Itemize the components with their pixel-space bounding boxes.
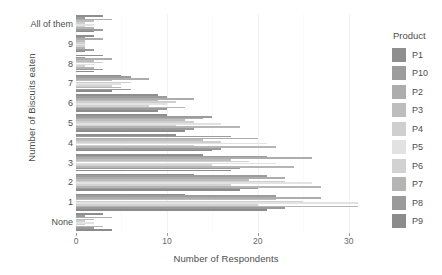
y-tick-label: 4 [3,138,73,148]
legend-swatch-icon [392,122,406,136]
legend-item-label: P9 [412,216,423,226]
y-tick-label: 1 [3,197,73,207]
legend-item-p4[interactable]: P4 [392,120,442,137]
bar-group [76,15,376,32]
legend-items: P1P10P2P3P4P5P6P7P8P9 [392,46,442,230]
legend-item-p3[interactable]: P3 [392,102,442,119]
legend-swatch-icon [392,196,406,210]
bar-group [76,75,376,92]
x-axis-title: Number of Respondents [76,253,376,264]
legend-swatch-icon [392,140,406,154]
bar-p9 [76,150,212,152]
plot-panel [76,14,376,232]
legend-item-label: P1 [412,50,423,60]
x-axis-ticks: 0102030 [76,233,376,247]
y-tick-label: 8 [3,59,73,69]
bar-p9 [76,130,185,132]
biscuit-product-bar-chart: Number of Biscuits eaten All of them9876… [0,0,442,275]
legend-item-p6[interactable]: P6 [392,157,442,174]
bar-group [76,35,376,52]
legend-item-p5[interactable]: P5 [392,139,442,156]
legend-item-label: P7 [412,179,423,189]
legend-item-p7[interactable]: P7 [392,176,442,193]
y-tick-label: 5 [3,118,73,128]
legend-item-p10[interactable]: P10 [392,65,442,82]
bar-group [76,114,376,131]
bar-group [76,55,376,72]
legend-item-label: P10 [412,68,428,78]
legend-swatch-icon [392,159,406,173]
x-tick-label: 0 [74,236,79,246]
bar-p9 [76,110,158,112]
y-tick-label: 7 [3,78,73,88]
bar-group [76,94,376,111]
legend-title: Product [393,30,442,41]
bar-p9 [76,229,112,231]
bar-group [76,194,376,211]
bar-p9 [76,51,85,53]
legend-swatch-icon [392,48,406,62]
bar-group [76,174,376,191]
bar-group [76,134,376,151]
legend-item-label: P3 [412,105,423,115]
legend-swatch-icon [392,177,406,191]
legend-swatch-icon [392,103,406,117]
bar-p9 [76,90,112,92]
bar-p9 [76,71,94,73]
bar-p9 [76,170,231,172]
legend-swatch-icon [392,85,406,99]
legend-item-label: P6 [412,161,423,171]
legend-item-label: P2 [412,87,423,97]
y-tick-label: 9 [3,39,73,49]
y-tick-label: All of them [3,19,73,29]
y-tick-label: 2 [3,177,73,187]
legend-item-p9[interactable]: P9 [392,213,442,230]
legend-item-p2[interactable]: P2 [392,83,442,100]
y-tick-label: None [3,217,73,227]
legend-item-p1[interactable]: P1 [392,46,442,63]
legend-item-label: P8 [412,198,423,208]
legend-swatch-icon [392,66,406,80]
legend-item-label: P4 [412,124,423,134]
legend: Product P1P10P2P3P4P5P6P7P8P9 [392,30,442,231]
y-tick-label: 3 [3,158,73,168]
bar-group [76,154,376,171]
y-tick-label: 6 [3,98,73,108]
legend-item-p8[interactable]: P8 [392,194,442,211]
legend-item-label: P5 [412,142,423,152]
bar-p9 [76,31,94,33]
bar-group [76,213,376,230]
bar-p9 [76,189,240,191]
x-tick-label: 10 [162,236,171,246]
bar-p9 [76,209,267,211]
x-tick-label: 30 [344,236,353,246]
y-axis-tick-labels: All of them987654321None [0,0,73,232]
legend-swatch-icon [392,214,406,228]
x-tick-label: 20 [253,236,262,246]
